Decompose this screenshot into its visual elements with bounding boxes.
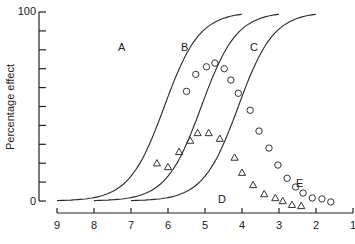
data-point-circle	[203, 64, 209, 70]
curve-a	[57, 14, 242, 200]
data-point-triangle	[153, 160, 160, 166]
data-point-circle	[328, 199, 334, 205]
data-point-triangle	[164, 163, 171, 169]
data-point-circle	[319, 196, 325, 202]
data-point-triangle	[216, 135, 223, 141]
data-point-triangle	[279, 197, 286, 203]
data-point-circle	[193, 71, 199, 77]
data-point-circle	[228, 77, 234, 83]
label-b: B	[181, 41, 188, 53]
data-point-circle	[275, 162, 281, 168]
x-tick-label: 6	[165, 219, 171, 231]
series-d-triangles	[153, 129, 304, 208]
data-point-triangle	[205, 129, 212, 135]
data-point-triangle	[231, 154, 238, 160]
data-point-circle	[235, 90, 241, 96]
data-point-circle	[183, 88, 189, 94]
y-axis-label: Percentage effect	[4, 64, 16, 150]
data-point-triangle	[250, 181, 257, 187]
data-point-circle	[284, 175, 290, 181]
data-point-triangle	[176, 148, 183, 154]
x-tick-label: 7	[128, 219, 134, 231]
data-point-triangle	[238, 169, 245, 175]
data-point-triangle	[194, 129, 201, 135]
curve-c	[131, 14, 316, 200]
dose-response-chart: 100 0 Percentage effect 987654321 A B C …	[0, 0, 355, 244]
x-tick-label: 5	[202, 219, 208, 231]
x-tick-label: 3	[276, 219, 282, 231]
data-point-triangle	[261, 190, 268, 196]
y-tick-0: 0	[30, 195, 36, 207]
x-axis: 987654321	[54, 208, 355, 231]
data-point-circle	[212, 60, 218, 66]
x-tick-label: 1	[350, 219, 355, 231]
y-tick-100: 100	[18, 5, 36, 17]
label-a: A	[118, 41, 126, 53]
label-e: E	[296, 177, 303, 189]
data-point-triangle	[298, 202, 305, 208]
data-point-circle	[221, 66, 227, 72]
label-d: D	[218, 193, 226, 205]
data-point-triangle	[272, 194, 279, 200]
data-point-circle	[300, 190, 306, 196]
data-point-circle	[256, 128, 262, 134]
label-c: C	[250, 41, 258, 53]
data-point-triangle	[288, 201, 295, 207]
data-point-circle	[266, 145, 272, 151]
x-tick-label: 2	[313, 219, 319, 231]
series-e-circles	[183, 60, 334, 205]
x-tick-label: 4	[239, 219, 245, 231]
data-point-circle	[247, 107, 253, 113]
data-point-circle	[309, 195, 315, 201]
y-axis: 100 0 Percentage effect	[4, 5, 46, 207]
x-tick-label: 9	[54, 219, 60, 231]
x-tick-label: 8	[91, 219, 97, 231]
